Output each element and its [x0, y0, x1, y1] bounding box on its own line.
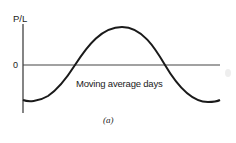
smudge-mark [225, 69, 231, 77]
x-axis-label: Moving average days [76, 79, 163, 89]
chart-plot [0, 0, 236, 143]
figure-caption: (a) [103, 116, 114, 125]
y-axis-label: P/L [13, 14, 27, 24]
y-tick-zero: 0 [13, 61, 18, 70]
